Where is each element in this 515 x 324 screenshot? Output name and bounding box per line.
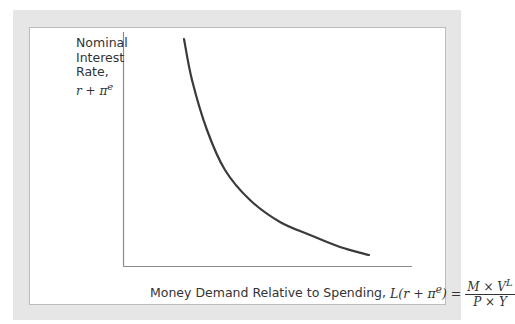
x-label-fraction: M × VL P × Y bbox=[465, 276, 514, 309]
x-label-text: Money Demand Relative to Spending, bbox=[150, 285, 386, 300]
x-label-math: L(r + πe) = bbox=[390, 283, 461, 301]
y-label-math: r + πe bbox=[76, 80, 128, 99]
y-label-line3: Rate, bbox=[76, 65, 128, 80]
x-axis-label: Money Demand Relative to Spending, L(r +… bbox=[150, 276, 515, 309]
y-label-line1: Nominal bbox=[76, 36, 128, 51]
y-label-line2: Interest bbox=[76, 51, 128, 66]
money-demand-curve bbox=[184, 39, 369, 255]
y-axis-label: Nominal Interest Rate, r + πe bbox=[76, 36, 128, 98]
